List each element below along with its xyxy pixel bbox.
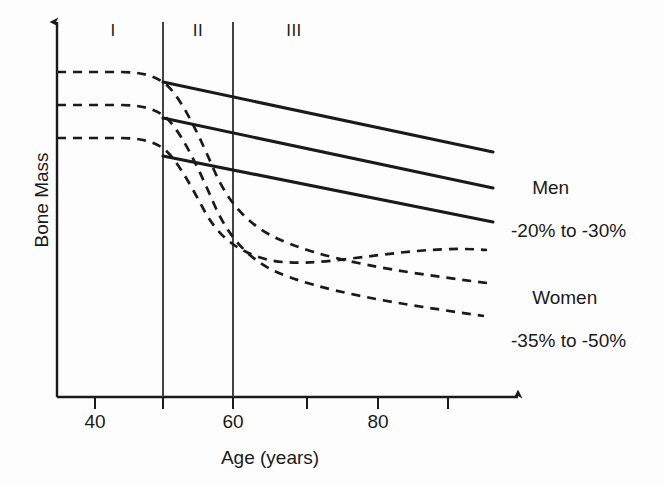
men-series-label: Men -20% to -30% [511, 158, 626, 281]
women-curve-low [57, 138, 487, 263]
x-axis-title: Age (years) [221, 448, 319, 468]
x-tick-label-80: 80 [367, 412, 388, 432]
men-line-middle [163, 118, 493, 188]
men-solid-lines [163, 82, 493, 222]
zone-label-i: I [110, 22, 115, 40]
men-line-high [163, 82, 493, 152]
women-label-name: Women [532, 287, 597, 308]
zone-label-ii: II [193, 22, 203, 40]
x-axis-ticks [95, 397, 448, 409]
men-line-low [163, 156, 493, 222]
women-series-label: Women -35% to -50% [511, 268, 626, 391]
men-label-name: Men [532, 177, 569, 198]
zone-divider-lines [163, 22, 233, 397]
bone-mass-vs-age-figure: I II III 40 60 80 Age (years) Bone Mass … [0, 0, 663, 486]
men-label-range: -20% to -30% [511, 221, 626, 241]
x-tick-label-40: 40 [84, 412, 105, 432]
women-dashed-curves [57, 72, 487, 316]
y-axis-title: Bone Mass [32, 152, 52, 247]
women-label-range: -35% to -50% [511, 331, 626, 351]
zone-label-iii: III [286, 22, 302, 40]
x-tick-label-60: 60 [222, 412, 243, 432]
